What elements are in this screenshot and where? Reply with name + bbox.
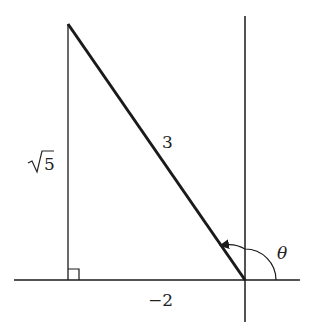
triangle-diagram: 3 5 −2 θ xyxy=(0,0,310,327)
hypotenuse xyxy=(68,24,245,280)
hypotenuse-label: 3 xyxy=(162,132,173,152)
right-angle-marker xyxy=(68,269,79,280)
angle-label: θ xyxy=(277,243,287,263)
radicand: 5 xyxy=(44,154,55,174)
vertical-leg-label: 5 xyxy=(28,151,55,174)
horizontal-leg-label: −2 xyxy=(148,290,173,310)
